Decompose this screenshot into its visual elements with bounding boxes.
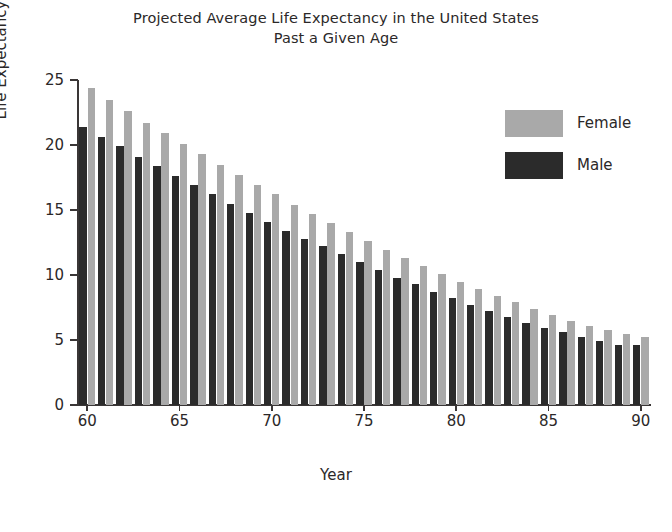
bar-male	[449, 298, 456, 405]
x-axis-title: Year	[0, 466, 672, 484]
x-tick-label: 60	[78, 412, 97, 430]
bar-female	[106, 100, 113, 406]
bar-female	[623, 334, 630, 406]
bar-male	[190, 185, 197, 405]
bar-female	[180, 144, 187, 405]
bar-male	[633, 345, 640, 405]
x-tick-label: 90	[631, 412, 650, 430]
bar-female	[291, 205, 298, 405]
y-tick-mark	[70, 274, 78, 276]
bar-female	[254, 185, 261, 405]
y-axis-title: Life Expectancy	[0, 0, 10, 170]
bar-female	[549, 315, 556, 405]
x-tick-mark	[86, 405, 88, 411]
bar-male	[578, 337, 585, 405]
bar-female	[309, 214, 316, 405]
bar-female	[475, 289, 482, 405]
bar-male	[596, 341, 603, 405]
bar-female	[438, 274, 445, 405]
bar-female	[364, 241, 371, 405]
x-tick-label: 65	[170, 412, 189, 430]
bar-male	[356, 262, 363, 405]
y-tick-label: 10	[0, 266, 64, 284]
bar-female	[235, 175, 242, 405]
bar-male	[375, 270, 382, 405]
y-tick-mark	[70, 209, 78, 211]
bar-female	[88, 88, 95, 405]
bar-male	[412, 284, 419, 405]
chart-container: Projected Average Life Expectancy in the…	[0, 0, 672, 532]
bar-male	[98, 137, 105, 405]
bar-male	[227, 204, 234, 406]
chart-title: Projected Average Life Expectancy in the…	[0, 8, 672, 48]
bar-male	[615, 345, 622, 405]
bar-female	[327, 223, 334, 405]
y-tick-mark	[70, 404, 78, 406]
x-tick-mark	[271, 405, 273, 411]
bar-female	[641, 337, 648, 405]
legend-label: Male	[577, 152, 613, 179]
bar-female	[604, 330, 611, 405]
bar-female	[586, 326, 593, 405]
bar-female	[383, 250, 390, 405]
legend-swatch	[505, 152, 563, 179]
bar-female	[272, 194, 279, 405]
bar-male	[116, 146, 123, 405]
bar-female	[346, 232, 353, 405]
x-tick-label: 85	[539, 412, 558, 430]
bar-male	[467, 305, 474, 405]
bar-female	[198, 154, 205, 405]
bar-male	[209, 194, 216, 405]
bar-male	[522, 323, 529, 405]
bar-male	[319, 246, 326, 405]
bar-male	[541, 328, 548, 405]
bar-female	[567, 321, 574, 406]
x-tick-label: 70	[262, 412, 281, 430]
y-tick-mark	[70, 144, 78, 146]
legend-label: Female	[577, 110, 631, 137]
bar-female	[457, 282, 464, 406]
bar-female	[401, 258, 408, 405]
bar-female	[161, 133, 168, 405]
chart-title-line-1: Projected Average Life Expectancy in the…	[0, 8, 672, 28]
chart-title-line-2: Past a Given Age	[0, 28, 672, 48]
bar-male	[79, 127, 86, 405]
bar-male	[485, 311, 492, 405]
legend-swatch	[505, 110, 563, 137]
bar-male	[135, 157, 142, 405]
y-tick-label: 5	[0, 331, 64, 349]
bar-female	[512, 302, 519, 405]
x-tick-label: 75	[354, 412, 373, 430]
x-tick-label: 80	[447, 412, 466, 430]
bar-female	[420, 266, 427, 405]
y-tick-label: 0	[0, 396, 64, 414]
bar-male	[246, 213, 253, 405]
bar-male	[559, 332, 566, 405]
x-tick-mark	[179, 405, 181, 411]
y-tick-label: 15	[0, 201, 64, 219]
y-tick-mark	[70, 79, 78, 81]
plot-area	[78, 80, 650, 405]
bar-male	[264, 222, 271, 405]
bar-male	[153, 166, 160, 405]
bar-female	[124, 111, 131, 405]
bar-female	[217, 165, 224, 406]
bar-female	[530, 309, 537, 405]
bar-male	[504, 317, 511, 405]
x-tick-mark	[363, 405, 365, 411]
x-tick-mark	[455, 405, 457, 411]
y-tick-mark	[70, 339, 78, 341]
bar-male	[301, 239, 308, 405]
bar-male	[393, 278, 400, 405]
bar-female	[143, 123, 150, 405]
x-tick-mark	[640, 405, 642, 411]
bar-male	[430, 292, 437, 405]
bar-female	[494, 296, 501, 405]
bar-male	[172, 176, 179, 405]
bar-male	[282, 231, 289, 405]
x-tick-mark	[548, 405, 550, 411]
bar-male	[338, 254, 345, 405]
